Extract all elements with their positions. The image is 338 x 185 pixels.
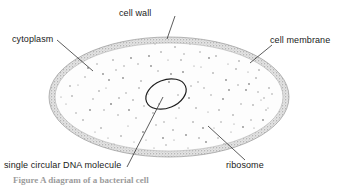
figure-caption-clipped: Figure A diagram of a bacterial cell	[0, 177, 338, 185]
cytoplasm-shape	[55, 43, 283, 151]
label-single-circular-dna-molecule: single circular DNA molecule	[4, 160, 121, 170]
figure-container: cell wall cell membrane cytoplasm single…	[0, 0, 338, 185]
label-cell-membrane: cell membrane	[270, 35, 330, 45]
label-cytoplasm: cytoplasm	[12, 34, 53, 44]
cell-wall-leader	[167, 16, 175, 39]
label-ribosome: ribosome	[226, 160, 264, 170]
figure-caption-text: Figure A diagram of a bacterial cell	[13, 177, 149, 185]
label-cell-wall: cell wall	[119, 8, 151, 18]
cell-diagram	[0, 0, 338, 185]
